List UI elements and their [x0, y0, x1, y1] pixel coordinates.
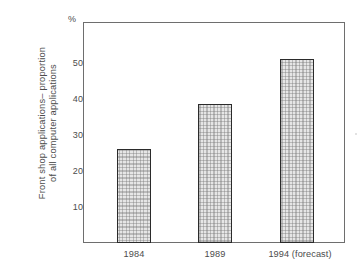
y-axis-title-line-2: of all computer applications: [48, 64, 60, 182]
y-axis-tick-label-30: 30: [58, 130, 83, 140]
y-axis-tick-label-20: 20: [58, 166, 83, 176]
bar-chart-figure: Front shop applications– proportion of a…: [0, 0, 364, 279]
page-speck: [355, 133, 357, 135]
y-axis-title-line-1: Front shop applications– proportion: [37, 47, 49, 199]
bar-1994-forecast: [280, 59, 314, 243]
y-axis-title: Front shop applications– proportion of a…: [33, 13, 63, 233]
x-axis-tick-label-1994-forecast: 1994 (forecast): [268, 249, 331, 259]
y-axis-tick-label-40: 40: [58, 94, 83, 104]
x-axis-tick-label-1984: 1984: [124, 249, 145, 259]
bar-1989: [198, 104, 232, 243]
bar-1984: [117, 149, 151, 243]
y-axis-unit-label: %: [68, 14, 76, 24]
y-axis-tick-label-10: 10: [58, 202, 83, 212]
x-axis-tick-label-1989: 1989: [205, 249, 226, 259]
y-axis-tick-label-50: 50: [58, 58, 83, 68]
